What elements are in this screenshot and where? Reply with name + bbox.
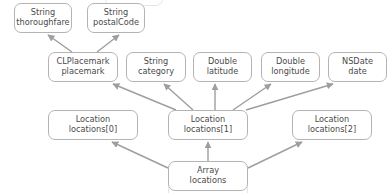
arrow-locations1-to-placemark [113,84,176,110]
node-name-label: locations[0] [69,125,117,135]
node-name-label: latitude [207,67,238,77]
node-name-label: postalCode [93,18,139,28]
arrow-locations1-to-date [246,84,333,110]
node-placemark[interactable]: CLPlacemarkplacemark [48,52,118,82]
node-locations2[interactable]: Locationlocations[2] [292,110,372,140]
arrow-array-to-locations0 [112,142,168,168]
node-name-label: locations[2] [308,125,356,135]
node-date[interactable]: NSDatedate [328,52,387,82]
node-longitude[interactable]: Doublelongitude [261,52,320,82]
node-locations0[interactable]: Locationlocations[0] [48,110,138,140]
node-name-label: category [138,67,174,77]
node-name-label: thoroughfare [16,18,69,28]
arrow-placemark-to-thoroughfare [48,35,72,52]
node-name-label: locations [190,176,227,186]
node-category[interactable]: Stringcategory [126,52,186,82]
node-latitude[interactable]: Doublelatitude [193,52,252,82]
arrow-array-to-locations2 [248,142,302,168]
node-postalCode[interactable]: StringpostalCode [87,3,145,33]
node-name-label: longitude [271,67,310,77]
arrow-locations1-to-longitude [233,84,271,110]
node-name-label: placemark [61,67,104,77]
arrow-locations1-to-category [164,84,193,110]
diagram-canvas: StringthoroughfareStringpostalCodeCLPlac… [0,0,392,193]
arrow-placemark-to-postalCode [97,35,119,52]
node-array[interactable]: Arraylocations [168,161,248,191]
node-name-label: locations[1] [184,125,232,135]
node-thoroughfare[interactable]: Stringthoroughfare [14,3,72,33]
node-locations1[interactable]: Locationlocations[1] [168,110,248,140]
node-name-label: date [348,67,366,77]
